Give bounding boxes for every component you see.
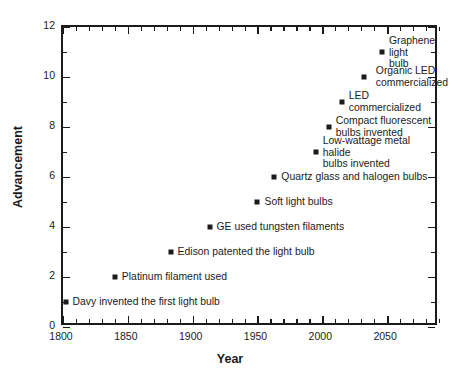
x-tick-minor-top — [296, 27, 297, 31]
y-tick-label: 2 — [17, 269, 55, 281]
x-axis-title: Year — [0, 352, 460, 366]
data-point-marker — [255, 200, 260, 205]
x-tick-minor — [309, 319, 310, 323]
x-tick-minor-top — [439, 27, 440, 31]
x-tick-minor — [245, 319, 246, 323]
y-tick-major-right — [428, 227, 435, 228]
x-tick-minor — [283, 319, 284, 323]
data-point-marker — [63, 300, 68, 305]
x-tick-minor-top — [232, 27, 233, 31]
data-point-marker — [207, 225, 212, 230]
y-tick-major — [63, 77, 70, 78]
x-tick-minor — [102, 319, 103, 323]
y-tick-minor-right — [431, 302, 435, 303]
x-tick-minor — [115, 319, 116, 323]
x-tick-minor-top — [309, 27, 310, 31]
x-tick-major-top — [387, 27, 388, 34]
x-tick-minor — [76, 319, 77, 323]
x-tick-minor-top — [206, 27, 207, 31]
x-tick-minor — [232, 319, 233, 323]
x-tick-major-top — [128, 27, 129, 34]
x-tick-minor-top — [270, 27, 271, 31]
data-point-label: Soft light bulbs — [264, 196, 332, 208]
y-tick-minor — [63, 102, 67, 103]
y-tick-minor-right — [431, 252, 435, 253]
y-tick-major — [63, 127, 70, 128]
x-tick-minor — [296, 319, 297, 323]
x-tick-major-top — [322, 27, 323, 34]
y-tick-minor — [63, 152, 67, 153]
x-tick-label: 2050 — [373, 330, 396, 342]
x-tick-minor-top — [102, 27, 103, 31]
x-tick-minor — [89, 319, 90, 323]
y-tick-major-right — [428, 327, 435, 328]
x-tick-label: 1950 — [244, 330, 267, 342]
x-tick-major — [257, 316, 258, 323]
x-tick-minor-top — [167, 27, 168, 31]
x-tick-minor — [439, 319, 440, 323]
x-tick-label: 1800 — [49, 330, 72, 342]
x-tick-minor — [270, 319, 271, 323]
y-tick-major — [63, 277, 70, 278]
y-tick-label: 12 — [17, 19, 55, 31]
x-tick-minor-top — [283, 27, 284, 31]
y-tick-major — [63, 177, 70, 178]
x-tick-minor — [400, 319, 401, 323]
x-tick-minor-top — [115, 27, 116, 31]
y-tick-major — [63, 27, 70, 28]
x-tick-minor — [154, 319, 155, 323]
x-tick-minor — [374, 319, 375, 323]
x-tick-major — [128, 316, 129, 323]
data-point-label: Platinum filament used — [122, 271, 227, 283]
y-tick-label: 0 — [17, 319, 55, 331]
x-tick-minor — [335, 319, 336, 323]
x-tick-major — [322, 316, 323, 323]
x-tick-minor-top — [180, 27, 181, 31]
x-tick-minor-top — [154, 27, 155, 31]
y-tick-major — [63, 327, 70, 328]
data-point-marker — [326, 125, 331, 130]
x-tick-minor-top — [348, 27, 349, 31]
x-tick-major-top — [257, 27, 258, 34]
y-tick-major-right — [428, 27, 435, 28]
x-tick-minor-top — [245, 27, 246, 31]
data-point-label: LED commercialized — [349, 90, 435, 113]
x-tick-major-top — [193, 27, 194, 34]
y-tick-label: 10 — [17, 69, 55, 81]
x-tick-minor — [348, 319, 349, 323]
data-point-label: Edison patented the light bulb — [178, 246, 315, 258]
x-tick-minor-top — [374, 27, 375, 31]
x-tick-minor — [141, 319, 142, 323]
y-tick-minor — [63, 52, 67, 53]
x-tick-minor — [426, 319, 427, 323]
x-tick-minor — [361, 319, 362, 323]
x-tick-major — [387, 316, 388, 323]
x-tick-minor-top — [219, 27, 220, 31]
data-point-label: Quartz glass and halogen bulbs — [281, 171, 427, 183]
x-tick-label: 1850 — [114, 330, 137, 342]
x-tick-minor-top — [400, 27, 401, 31]
y-axis-title: Advancement — [11, 97, 25, 237]
x-tick-minor-top — [76, 27, 77, 31]
data-point-marker — [272, 175, 277, 180]
x-tick-minor-top — [89, 27, 90, 31]
data-point-marker — [112, 275, 117, 280]
x-tick-minor — [413, 319, 414, 323]
y-tick-major — [63, 227, 70, 228]
x-tick-minor — [167, 319, 168, 323]
y-tick-minor-right — [431, 202, 435, 203]
x-tick-minor-top — [141, 27, 142, 31]
data-point-label: Compact fluorescent bulbs invented — [336, 115, 431, 138]
plot-area: Davy invented the first light bulbPlatin… — [61, 25, 437, 325]
y-tick-minor — [63, 252, 67, 253]
chart-figure: Davy invented the first light bulbPlatin… — [0, 0, 460, 380]
x-tick-major — [63, 316, 64, 323]
x-tick-label: 1900 — [179, 330, 202, 342]
x-tick-minor-top — [335, 27, 336, 31]
data-point-marker — [339, 100, 344, 105]
x-tick-minor — [206, 319, 207, 323]
x-tick-minor-top — [361, 27, 362, 31]
data-point-label: Davy invented the first light bulb — [73, 296, 220, 308]
y-tick-minor — [63, 202, 67, 203]
data-point-marker — [361, 75, 366, 80]
